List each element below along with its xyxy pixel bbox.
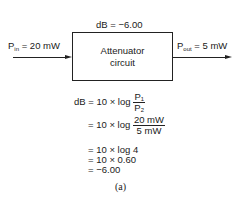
equation-line-1: dB = 10 × log P₁P₂ xyxy=(74,92,145,113)
input-arrow-line xyxy=(13,57,67,58)
input-arrowhead-icon xyxy=(65,55,72,59)
attenuator-box: Attenuator circuit xyxy=(72,32,173,81)
equation-line-2: = 10 × log 20 mW5 mW xyxy=(88,115,165,136)
fraction-p1-p2: P₁P₂ xyxy=(133,92,145,113)
gain-label: dB = −6.00 xyxy=(96,19,142,30)
figure-caption: (a) xyxy=(115,181,126,192)
output-arrow-line xyxy=(173,57,226,58)
input-power-label: Pin = 20 mW xyxy=(8,40,60,55)
box-label-line1: Attenuator xyxy=(73,45,172,56)
box-label-line2: circuit xyxy=(73,57,172,68)
output-arrowhead-icon xyxy=(225,55,232,59)
output-power-label: Pout = 5 mW xyxy=(177,40,227,55)
fraction-20mw-5mw: 20 mW5 mW xyxy=(133,115,165,136)
equation-line-5: = −6.00 xyxy=(88,164,120,175)
